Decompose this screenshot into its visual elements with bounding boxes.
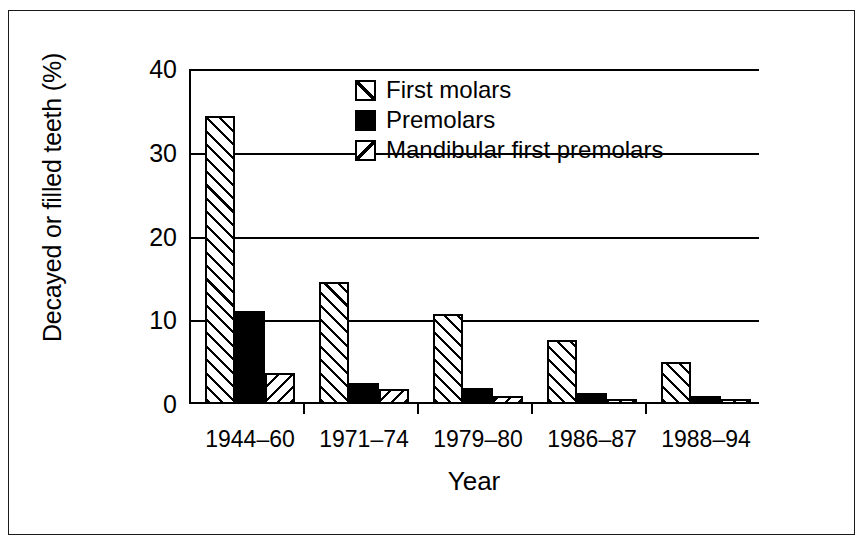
chart-legend: First molarsPremolarsMandibular first pr… [355,75,663,165]
y-tick-label: 0 [163,390,177,419]
y-axis-title: Decayed or filled teeth (%) [38,43,67,353]
legend-label: First molars [386,76,511,104]
gridline-40 [189,69,759,71]
bar [319,282,349,404]
legend-item: Premolars [355,105,663,135]
y-tick-label: 10 [149,306,177,335]
x-tick-label: 1986–87 [547,426,637,453]
y-tick-label: 30 [149,138,177,167]
x-axis-title: Year [189,466,759,497]
bar [235,311,265,404]
y-tick-label: 20 [149,222,177,251]
bar [265,373,295,404]
x-tick-label: 1988–94 [661,426,751,453]
x-tick-label: 1944–60 [205,426,295,453]
legend-label: Premolars [386,106,495,134]
bar [433,314,463,404]
x-tick [531,404,533,414]
x-tick-label: 1979–80 [433,426,523,453]
y-tick-label: 40 [149,55,177,84]
legend-label: Mandibular first premolars [386,136,663,164]
legend-swatch-icon [355,110,376,131]
figure-frame: Decayed or filled teeth (%) 010203040 19… [8,10,855,535]
bar [349,383,379,404]
bar [547,340,577,404]
gridline-10 [189,320,759,322]
legend-swatch-icon [355,80,376,101]
y-axis-spine [189,69,191,404]
x-tick [417,404,419,414]
bar [661,362,691,404]
legend-swatch-icon [355,140,376,161]
x-axis-spine [189,402,759,404]
x-tick [645,404,647,414]
legend-item: Mandibular first premolars [355,135,663,165]
plot-area: 010203040 1944–601971–741979–801986–8719… [189,69,759,404]
legend-item: First molars [355,75,663,105]
gridline-20 [189,237,759,239]
x-tick [303,404,305,414]
bar [205,116,235,404]
x-tick-label: 1971–74 [319,426,409,453]
